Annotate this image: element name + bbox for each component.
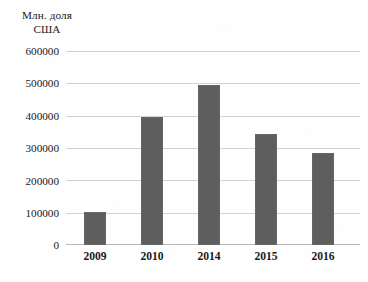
bar-2015: [255, 134, 277, 245]
y-axis-title-line-2: США: [4, 23, 90, 37]
y-axis-tick-label: 600000: [0, 46, 59, 57]
y-axis-tick-label: 300000: [0, 143, 59, 154]
y-axis-tick-label: 400000: [0, 111, 59, 122]
bar-2009: [84, 212, 106, 245]
y-axis-tick-label: 100000: [0, 208, 59, 219]
x-axis-tick-label-2014: 2014: [179, 250, 239, 263]
y-axis-title: Млн. доля США: [4, 9, 90, 36]
plot-area: [66, 51, 360, 245]
y-axis-tick-label: 0: [0, 240, 59, 251]
x-axis-tick-label-2009: 2009: [65, 250, 125, 263]
figure-caption-fragment: [16, 273, 362, 282]
y-axis-title-line-1: Млн. доля: [4, 9, 90, 23]
x-axis-tick-label-2010: 2010: [122, 250, 182, 263]
chart-figure: Млн. доля США 600000 500000 400000 30000…: [0, 0, 368, 282]
x-axis-tick-label-2015: 2015: [236, 250, 296, 263]
bar-2010: [141, 117, 163, 245]
bar-2016: [312, 153, 334, 245]
bar-2014: [198, 85, 220, 245]
y-axis-tick-label: 200000: [0, 176, 59, 187]
x-axis-tick-label-2016: 2016: [293, 250, 353, 263]
bar-series: [66, 51, 360, 245]
y-axis-tick-label: 500000: [0, 78, 59, 89]
